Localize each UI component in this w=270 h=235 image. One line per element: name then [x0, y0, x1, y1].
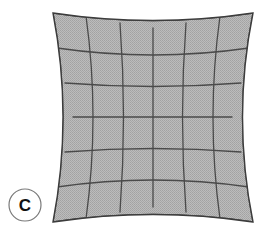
panel-label-letter: C [19, 196, 31, 215]
figure-panel: C [0, 0, 270, 235]
pincushion-distortion-diagram: C [0, 0, 270, 235]
panel-label-badge: C [9, 189, 41, 221]
